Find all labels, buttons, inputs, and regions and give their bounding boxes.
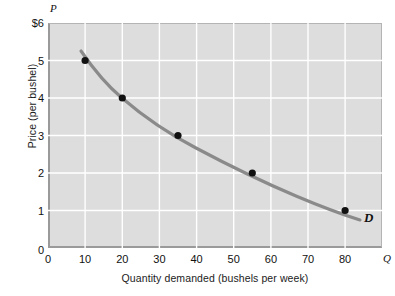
gridlines-horizontal [48, 61, 382, 211]
data-point [174, 132, 181, 139]
demand-curve-chart: $6 5 4 3 2 1 0 0 10 20 30 40 50 60 70 80… [0, 0, 395, 296]
data-point [82, 57, 89, 64]
x-tick-label: 10 [65, 253, 105, 265]
x-axis-symbol: Q [383, 252, 391, 264]
data-point [249, 169, 256, 176]
plot-graphics [48, 23, 382, 248]
x-tick-label: 50 [214, 253, 254, 265]
x-tick-label: 80 [325, 253, 365, 265]
demand-curve-label: D [364, 210, 373, 226]
y-axis-symbol: P [50, 2, 57, 14]
y-axis-title: Price (per bushel) [26, 26, 38, 186]
data-point [342, 207, 349, 214]
x-tick-label: 70 [288, 253, 328, 265]
data-point [119, 94, 126, 101]
x-tick-label: 30 [139, 253, 179, 265]
y-tick-label: 1 [0, 205, 44, 217]
x-tick-label: 60 [251, 253, 291, 265]
x-tick-label: 20 [102, 253, 142, 265]
x-axis-title: Quantity demanded (bushels per week) [48, 272, 382, 284]
x-tick-label: 40 [177, 253, 217, 265]
x-tick-label: 0 [28, 253, 68, 265]
